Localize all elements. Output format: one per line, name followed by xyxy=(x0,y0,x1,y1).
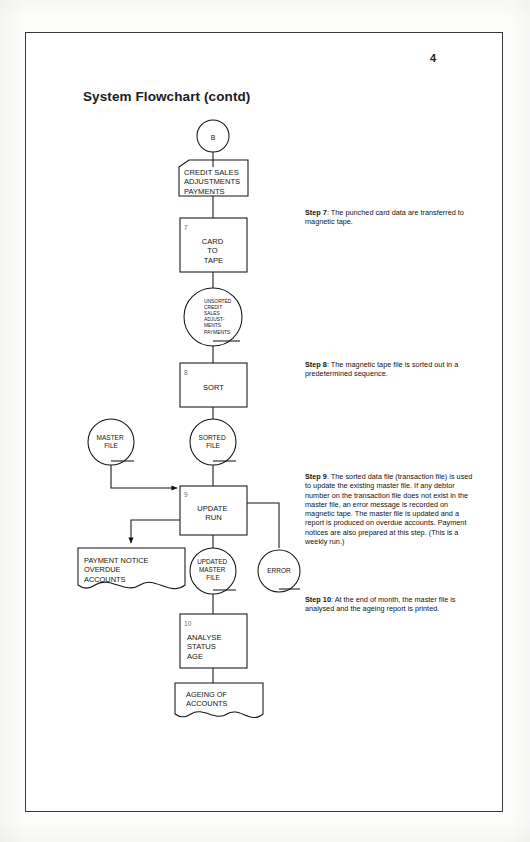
step-10-description: Step 10: At the end of month, the master… xyxy=(305,595,477,614)
step-9-text: The sorted data file (transaction file) … xyxy=(305,472,472,546)
node-sort-step: 8 xyxy=(184,369,188,376)
node-updated-master-file-label: UPDATED MASTER FILE xyxy=(197,558,228,581)
scanned-page-background: 4 System Flowchart (contd) xyxy=(0,0,530,842)
step-8-description: Step 8: The magnetic tape file is sorted… xyxy=(305,360,477,379)
step-7-label: Step 7 xyxy=(305,208,327,217)
node-error-tape-label: ERROR xyxy=(267,567,291,574)
step-9-description: Step 9. The sorted data file (transactio… xyxy=(305,472,477,546)
node-unsorted-tape-label: UNSORTED CREDIT SALES ADJUST- MENTS PAYM… xyxy=(204,299,233,335)
node-master-file-label: MASTER FILE xyxy=(97,434,126,449)
node-ageing-of-accounts-label: AGEING OF ACCOUNTS xyxy=(186,690,229,708)
system-flowchart-diagram: B CREDIT SALES ADJUSTMENTS PAYMENTS 7 CA… xyxy=(0,0,530,842)
node-payment-notice-label: PAYMENT NOTICE OVERDUE ACCOUNTS xyxy=(84,556,151,584)
node-card-to-tape-step: 7 xyxy=(184,224,188,231)
node-sort-label: SORT xyxy=(203,383,224,392)
node-sorted-file-label: SORTED FILE xyxy=(199,434,228,449)
node-card-to-tape-label: CARD TO TAPE xyxy=(202,237,226,265)
step-10-label: Step 10 xyxy=(305,595,331,604)
step-9-label: Step 9 xyxy=(305,472,327,481)
node-analyse-status-age-step: 10 xyxy=(184,620,192,627)
node-update-run-label: UPDATE RUN xyxy=(197,504,229,522)
node-analyse-status-age-label: ANALYSE STATUS AGE xyxy=(187,633,224,661)
step-7-description: Step 7: The punched card data are transf… xyxy=(305,208,477,227)
node-update-run-step: 9 xyxy=(184,491,188,498)
node-connector-b-label: B xyxy=(211,134,216,141)
step-8-label: Step 8 xyxy=(305,360,327,369)
node-credit-sales-card-label: CREDIT SALES ADJUSTMENTS PAYMENTS xyxy=(184,168,242,196)
